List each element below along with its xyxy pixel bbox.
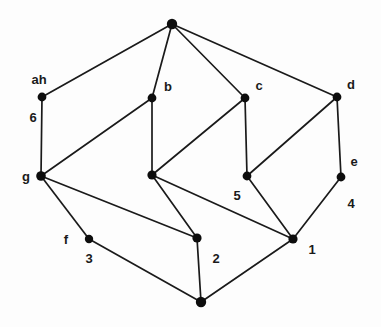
graph-node[interactable] <box>196 297 206 307</box>
graph-edge <box>41 97 42 176</box>
node-label-f3: 3 <box>85 252 92 265</box>
node-label-f: f <box>64 233 68 246</box>
node-label-one: 1 <box>308 243 315 256</box>
graph-node[interactable] <box>333 93 342 102</box>
graph-node[interactable] <box>243 172 252 181</box>
graph-edge <box>201 239 293 302</box>
graph-edge <box>197 238 201 302</box>
graph-node[interactable] <box>167 19 177 29</box>
graph-node[interactable] <box>38 93 47 102</box>
graph-edge <box>152 98 245 175</box>
graph-diagram-canvas: ahbcd6g5e43f21 <box>0 0 381 327</box>
graph-edge <box>172 24 245 98</box>
graph-edge <box>89 239 201 302</box>
graph-edge <box>293 177 341 239</box>
node-layer <box>36 19 345 307</box>
node-label-b: b <box>164 80 172 93</box>
node-label-e: e <box>350 155 357 168</box>
node-label-five: 5 <box>233 189 240 202</box>
graph-node[interactable] <box>85 235 93 243</box>
graph-node[interactable] <box>192 233 201 242</box>
node-label-six: 6 <box>29 111 36 124</box>
graph-edge <box>247 176 293 239</box>
graph-node[interactable] <box>148 94 157 103</box>
graph-svg <box>0 0 381 327</box>
graph-node[interactable] <box>36 171 46 181</box>
node-label-d: d <box>347 78 355 91</box>
node-label-c: c <box>255 79 262 92</box>
graph-node[interactable] <box>337 173 346 182</box>
graph-node[interactable] <box>288 234 297 243</box>
graph-edge <box>337 97 341 177</box>
graph-edge <box>247 97 337 176</box>
graph-node[interactable] <box>241 94 250 103</box>
graph-node[interactable] <box>147 170 156 179</box>
node-label-four: 4 <box>347 197 354 210</box>
node-label-ah: ah <box>31 73 46 86</box>
graph-edge <box>41 98 152 176</box>
node-label-two: 2 <box>212 252 219 265</box>
graph-edge <box>245 98 247 176</box>
node-label-g: g <box>22 170 30 183</box>
graph-edge <box>42 24 172 97</box>
